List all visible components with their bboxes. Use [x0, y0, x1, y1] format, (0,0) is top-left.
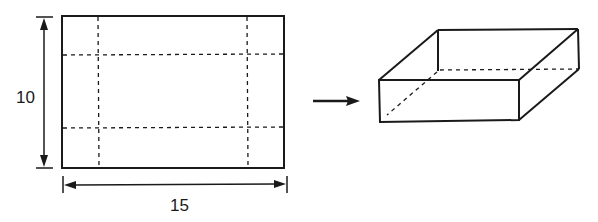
arrowhead-right-icon [274, 180, 286, 188]
hidden-back-bottom-edge [440, 69, 578, 70]
height-dimension: 10 [16, 17, 53, 168]
fold-line-top [63, 54, 283, 55]
fold-line-right [247, 17, 248, 167]
width-dimension-line [74, 184, 276, 185]
right-arrow-icon [346, 96, 360, 106]
box-right-bottom-edge [519, 69, 579, 120]
height-label: 10 [16, 88, 35, 107]
transform-arrow [313, 96, 360, 106]
box-front-face [379, 80, 519, 122]
width-dimension: 15 [63, 176, 287, 215]
fold-line-bottom [63, 127, 283, 128]
fold-line-left [98, 17, 99, 167]
arrowhead-down-icon [40, 155, 48, 167]
flat-sheet [62, 16, 284, 168]
box-left-top-edge [379, 30, 438, 80]
box-right-top-edge [519, 29, 578, 80]
hidden-left-bottom-edge [387, 72, 437, 115]
width-label: 15 [170, 196, 189, 215]
box-back-top-edge [438, 29, 578, 30]
sheet-outline [62, 16, 284, 168]
box-back-right-vertical [578, 29, 579, 69]
arrowhead-up-icon [40, 18, 48, 30]
box-folding-diagram: 10 15 [0, 0, 598, 222]
open-box [379, 29, 579, 122]
arrowhead-left-icon [64, 181, 76, 189]
